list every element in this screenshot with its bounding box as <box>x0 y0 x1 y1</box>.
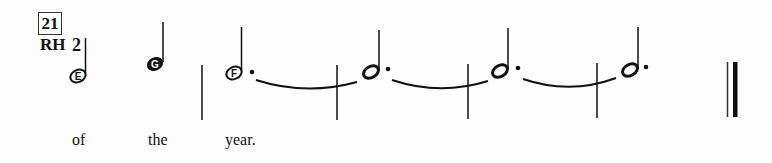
final-barline <box>728 62 738 117</box>
music-notation: E G F <box>0 0 772 163</box>
note-dotted-half <box>490 28 520 80</box>
tie <box>392 80 488 88</box>
note-dotted-half <box>361 30 390 81</box>
lyric-of: of <box>72 131 85 149</box>
lyric-the: the <box>148 131 168 149</box>
note-dotted-half <box>620 27 648 79</box>
lyric-year: year. <box>225 131 256 149</box>
tie <box>256 80 357 89</box>
svg-text:E: E <box>75 71 82 82</box>
svg-text:F: F <box>231 68 237 79</box>
note-e-half: E <box>68 38 88 85</box>
tie <box>523 78 616 87</box>
note-f-dotted-half: F <box>224 27 254 82</box>
svg-text:G: G <box>151 59 159 70</box>
note-g-quarter: G <box>145 22 166 73</box>
